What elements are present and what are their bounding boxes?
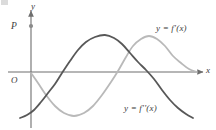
y-axis-label: y — [31, 2, 35, 11]
curve-label-f-double-prime: y = f''(x) — [124, 104, 157, 113]
graph-canvas — [0, 0, 216, 130]
point-p-marker — [29, 24, 33, 28]
points-group — [29, 24, 33, 28]
point-p-label: P — [11, 22, 17, 32]
origin-label: O — [11, 76, 18, 85]
curves-group — [20, 35, 197, 118]
x-axis-label: x — [206, 66, 210, 75]
curve-f-prime — [31, 36, 197, 116]
curve-label-f-prime: y = f'(x) — [156, 24, 187, 33]
math-graph-figure: y x O P y = f'(x) y = f''(x) — [0, 0, 216, 130]
